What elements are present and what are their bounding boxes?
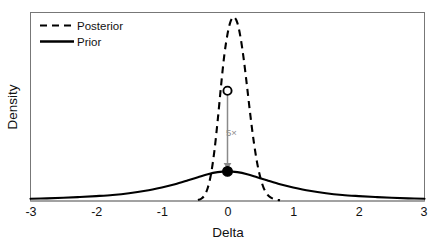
x-axis-title: Delta bbox=[212, 225, 244, 240]
chart-canvas: 5× -3 -2 -1 0 1 2 3 Delta Density Poster… bbox=[0, 0, 435, 244]
xtick-label-3: 0 bbox=[225, 205, 232, 219]
density-plot-figure: 5× -3 -2 -1 0 1 2 3 Delta Density Poster… bbox=[0, 0, 435, 244]
legend-label-posterior: Posterior bbox=[77, 20, 123, 32]
xtick-label-4: 1 bbox=[290, 205, 297, 219]
xtick-label-0: -3 bbox=[25, 205, 36, 219]
xtick-label-5: 2 bbox=[356, 205, 363, 219]
xtick-label-1: -2 bbox=[91, 205, 102, 219]
xtick-label-2: -1 bbox=[157, 205, 168, 219]
xtick-label-6: 3 bbox=[421, 205, 428, 219]
legend-label-prior: Prior bbox=[77, 36, 101, 48]
y-axis-title: Density bbox=[5, 84, 20, 129]
open-circle-marker bbox=[223, 87, 231, 95]
ratio-label: 5× bbox=[226, 127, 237, 138]
filled-circle-marker bbox=[223, 167, 233, 177]
